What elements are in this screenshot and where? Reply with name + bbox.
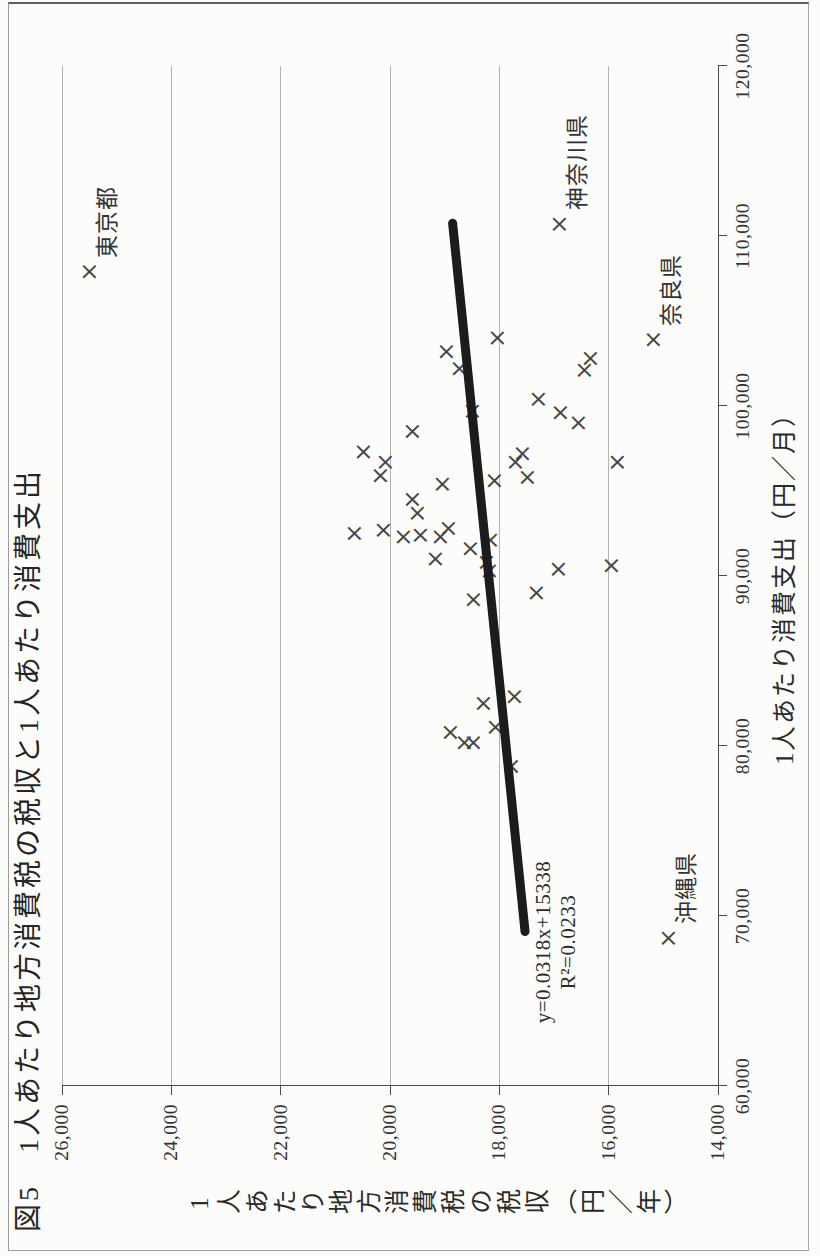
data-point-marker: × (656, 928, 680, 948)
y-axis-tick (62, 1086, 63, 1095)
data-point-marker: × (484, 328, 508, 348)
y-gridline (608, 66, 609, 1086)
x-axis-title: 1人あたり消費支出（円／月） (764, 405, 800, 765)
data-point-marker: × (427, 527, 451, 547)
y-gridline (390, 66, 391, 1086)
trend-line (447, 219, 529, 937)
x-axis-tick (718, 66, 727, 67)
y-tick-label: 16,000 (598, 1104, 620, 1188)
data-point-marker: × (482, 471, 506, 491)
x-axis-tick (718, 406, 727, 407)
x-tick-label: 70,000 (732, 856, 754, 976)
x-axis-tick (718, 576, 727, 577)
x-axis-tick (718, 1086, 727, 1087)
data-point-marker: × (514, 467, 538, 487)
data-point-marker: × (77, 262, 101, 282)
data-point-marker: × (546, 559, 570, 579)
data-point-label: 東京都 (96, 186, 120, 258)
data-point-marker: × (461, 590, 485, 610)
scanned-figure-page: 図5 1人あたり地方消費税の税収と1人あたり消費支出 1人あたり地方消費税の税収… (0, 0, 820, 1256)
x-tick-label: 100,000 (732, 346, 754, 466)
x-tick-label: 80,000 (732, 686, 754, 806)
y-tick-label: 14,000 (707, 1104, 729, 1188)
data-point-marker: × (598, 556, 622, 576)
trend-equation-line: y=0.0318x+15338 (531, 861, 556, 1023)
y-tick-label: 26,000 (51, 1104, 73, 1188)
y-gridline (62, 66, 63, 1086)
x-tick-label: 110,000 (732, 176, 754, 296)
y-axis-line (62, 1085, 718, 1086)
x-axis-tick (718, 916, 727, 917)
data-point-marker: × (572, 360, 596, 380)
y-gridline (171, 66, 172, 1086)
data-point-marker: × (405, 503, 429, 523)
data-point-marker: × (565, 413, 589, 433)
trend-r-squared: R²=0.0233 (556, 861, 581, 1023)
data-point-marker: × (422, 549, 446, 569)
x-tick-label: 60,000 (732, 1026, 754, 1146)
x-tick-label: 90,000 (732, 516, 754, 636)
data-point-marker: × (368, 466, 392, 486)
y-tick-label: 18,000 (488, 1104, 510, 1188)
data-point-label: 沖縄県 (675, 852, 699, 924)
x-axis-tick (718, 236, 727, 237)
y-axis-title: 1人あたり地方消費税の税収（円／年） (186, 1186, 692, 1222)
y-axis-tick (390, 1086, 391, 1095)
data-point-marker: × (641, 330, 665, 350)
data-point-marker: × (341, 523, 365, 543)
x-axis-tick (718, 746, 727, 747)
y-axis-tick (499, 1086, 500, 1095)
trend-equation: y=0.0318x+15338R²=0.0233 (531, 861, 581, 1023)
data-point-marker: × (471, 693, 495, 713)
x-tick-label: 120,000 (732, 6, 754, 126)
y-axis-tick (608, 1086, 609, 1095)
y-gridline (280, 66, 281, 1086)
data-point-marker: × (547, 214, 571, 234)
y-axis-tick (280, 1086, 281, 1095)
data-point-label: 奈良県 (660, 254, 684, 326)
data-point-marker: × (430, 474, 454, 494)
y-tick-label: 22,000 (270, 1104, 292, 1188)
chart-title: 図5 1人あたり地方消費税の税収と1人あたり消費支出 (6, 468, 46, 1232)
data-point-label: 神奈川県 (566, 114, 590, 210)
scatter-chart: 図5 1人あたり地方消費税の税収と1人あたり消費支出 1人あたり地方消費税の税収… (0, 0, 820, 1256)
data-point-marker: × (400, 421, 424, 441)
data-point-marker: × (523, 583, 547, 603)
y-axis-tick (718, 1086, 719, 1095)
y-axis-tick (171, 1086, 172, 1095)
y-tick-label: 20,000 (379, 1104, 401, 1188)
data-point-marker: × (604, 452, 628, 472)
y-tick-label: 24,000 (160, 1104, 182, 1188)
